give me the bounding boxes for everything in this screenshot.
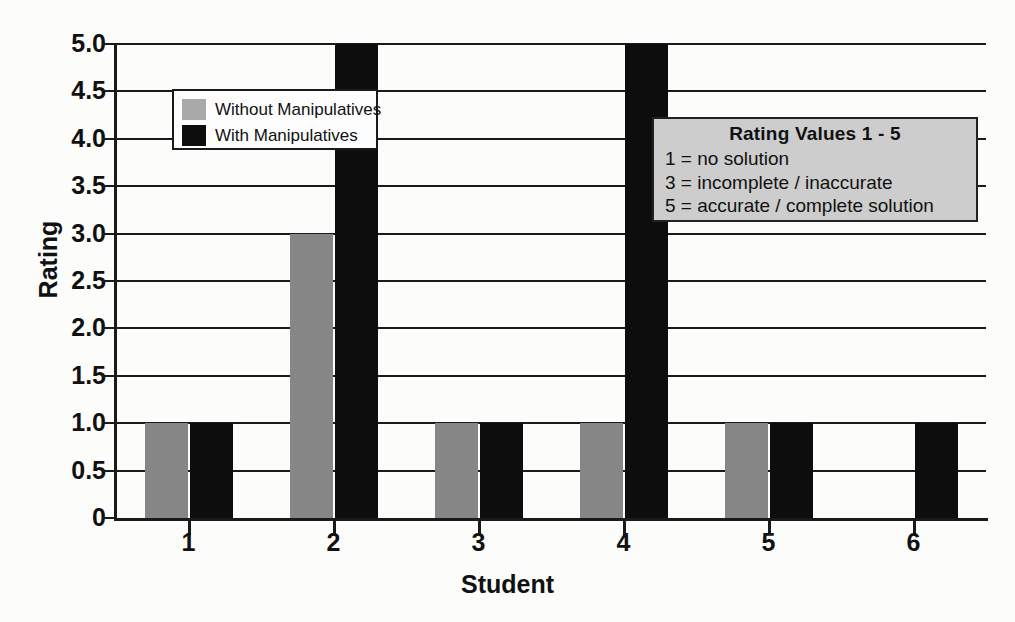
y-tick-label: 3.0: [30, 221, 106, 246]
bar: [580, 423, 623, 518]
legend-swatch-icon: [182, 99, 206, 120]
y-tick-label: 0: [30, 505, 106, 530]
chart-legend: Without Manipulatives With Manipulatives: [172, 89, 378, 150]
bar: [190, 423, 233, 518]
gridline: [116, 422, 986, 424]
y-tick-mark: [102, 470, 116, 472]
x-tick-label: 1: [169, 528, 209, 557]
y-tick-mark: [102, 327, 116, 329]
bar: [725, 423, 768, 518]
x-tick-label: 2: [314, 528, 354, 557]
y-tick-label: 4.0: [30, 126, 106, 151]
y-tick-label: 2.5: [30, 268, 106, 293]
bar: [625, 44, 668, 518]
y-tick-mark: [102, 233, 116, 235]
y-tick-label: 5.0: [30, 31, 106, 56]
gridline: [116, 375, 986, 377]
y-tick-mark: [102, 422, 116, 424]
y-axis-line: [114, 44, 117, 520]
y-tick-mark: [102, 517, 116, 519]
rating-values-infobox: Rating Values 1 - 5 1 = no solution 3 = …: [652, 117, 978, 222]
gridline: [116, 470, 986, 472]
y-tick-label: 4.5: [30, 78, 106, 103]
x-tick-label: 4: [604, 528, 644, 557]
y-tick-label: 0.5: [30, 458, 106, 483]
bar: [290, 234, 333, 518]
gridline: [116, 43, 986, 45]
y-tick-mark: [102, 43, 116, 45]
x-tick-label: 3: [459, 528, 499, 557]
x-tick-label: 5: [749, 528, 789, 557]
infobox-line-1: 1 = no solution: [654, 147, 976, 171]
legend-item-without-manipulatives: Without Manipulatives: [182, 96, 381, 122]
legend-item-label: Without Manipulatives: [215, 101, 381, 118]
gridline: [116, 327, 986, 329]
y-tick-mark: [102, 280, 116, 282]
y-tick-mark: [102, 375, 116, 377]
bar: [770, 423, 813, 518]
bar: [480, 423, 523, 518]
bar: [145, 423, 188, 518]
infobox-line-3: 3 = incomplete / inaccurate: [654, 171, 976, 195]
bar-chart: Rating 5.04.54.03.53.02.52.01.51.00.50 1…: [0, 0, 1015, 622]
x-axis-title: Student: [0, 570, 1015, 599]
bar: [915, 423, 958, 518]
y-tick-label: 1.0: [30, 410, 106, 435]
x-tick-label: 6: [894, 528, 934, 557]
legend-item-with-manipulatives: With Manipulatives: [182, 122, 358, 148]
y-tick-mark: [102, 138, 116, 140]
legend-swatch-icon: [182, 125, 206, 146]
gridline: [116, 233, 986, 235]
legend-item-label: With Manipulatives: [215, 127, 358, 144]
y-axis-tick-labels: 5.04.54.03.53.02.52.01.51.00.50: [0, 0, 106, 622]
y-tick-label: 2.0: [30, 315, 106, 340]
infobox-title: Rating Values 1 - 5: [654, 123, 976, 145]
y-tick-mark: [102, 185, 116, 187]
infobox-line-5: 5 = accurate / complete solution: [654, 194, 976, 218]
y-tick-label: 3.5: [30, 173, 106, 198]
bar: [435, 423, 478, 518]
x-axis-line: [114, 518, 988, 521]
y-tick-label: 1.5: [30, 363, 106, 388]
gridline: [116, 280, 986, 282]
y-tick-mark: [102, 90, 116, 92]
